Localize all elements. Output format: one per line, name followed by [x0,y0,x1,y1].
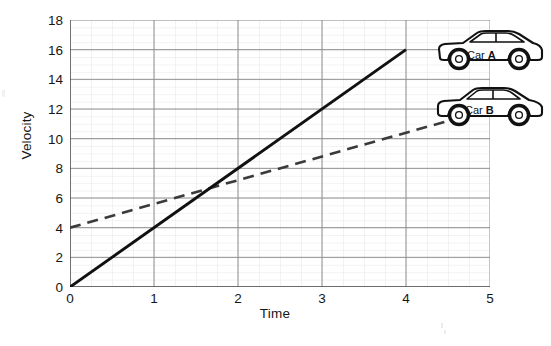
scan-artifact [2,90,5,97]
y-tick-6: 6 [39,191,63,206]
x-axis-tick-labels: 0 1 2 3 4 5 [0,291,551,317]
minor-gridlines [70,20,490,287]
car-a-letter: A [488,49,496,61]
car-a-prefix: Car [467,49,488,61]
x-tick-4: 4 [391,291,421,306]
y-tick-18: 18 [39,13,63,28]
y-tick-12: 12 [39,102,63,117]
y-axis-title: Velocity [19,91,34,181]
y-tick-2: 2 [39,250,63,265]
car-b-prefix: Car [465,104,486,116]
x-tick-2: 2 [223,291,253,306]
y-tick-8: 8 [39,161,63,176]
x-tick-3: 3 [307,291,337,306]
x-tick-5: 5 [475,291,505,306]
y-tick-14: 14 [39,72,63,87]
y-tick-16: 16 [39,42,63,57]
plot-svg [70,20,490,287]
scan-artifact [444,330,446,334]
car-b-label: Car B [465,104,494,116]
legend-car-a: Car A [434,26,546,76]
car-b-letter: B [486,104,494,116]
scan-artifact [441,323,443,328]
x-tick-0: 0 [55,291,85,306]
y-tick-10: 10 [39,131,63,146]
plot-area [70,20,490,287]
x-tick-1: 1 [139,291,169,306]
velocity-time-chart: Velocity Time 18 16 14 12 10 8 6 4 2 0 0… [0,0,551,346]
car-a-label: Car A [467,49,496,61]
legend-car-b: Car B [434,82,546,132]
y-tick-4: 4 [39,220,63,235]
